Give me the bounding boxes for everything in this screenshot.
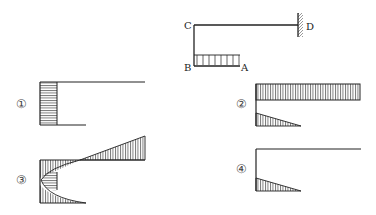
option-3-label: ③ xyxy=(16,173,27,187)
distributed-load-arrows xyxy=(197,55,239,65)
point-c-label: C xyxy=(184,20,192,31)
point-a-label: A xyxy=(240,62,249,73)
point-d-label: D xyxy=(306,21,314,32)
diagram-canvas: C D B A ① ② ③ ④ xyxy=(0,0,376,215)
point-b-label: B xyxy=(184,62,191,73)
option-1-label: ① xyxy=(16,97,27,111)
option-2-label: ② xyxy=(236,97,247,111)
option-1-diagram[interactable]: ① xyxy=(16,82,145,125)
problem-frame: C D B A xyxy=(184,13,314,73)
option-4-label: ④ xyxy=(236,162,247,176)
option-3-diagram[interactable]: ③ xyxy=(16,136,145,203)
fixed-support-icon xyxy=(298,13,303,37)
option-2-diagram[interactable]: ② xyxy=(236,84,360,126)
option-4-diagram[interactable]: ④ xyxy=(236,149,361,191)
